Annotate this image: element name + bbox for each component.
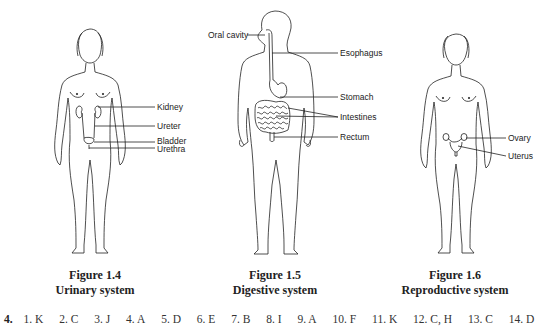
answer-item: 4. A (126, 313, 145, 325)
label-stomach: Stomach (340, 93, 374, 102)
caption-title: Urinary system (40, 283, 150, 298)
label-esophagus: Esophagus (340, 49, 383, 58)
caption-title: Reproductive system (380, 283, 530, 298)
answer-item: 12. C, H (413, 313, 452, 325)
answer-item: 14. D (509, 313, 535, 325)
caption-figure-1-4: Figure 1.4 Urinary system (40, 268, 150, 298)
answer-item: 7. B (231, 313, 250, 325)
figure-reproductive-system: Ovary Uterus Figure 1.6 Reproductive sys… (380, 0, 557, 300)
question-number: 4. (4, 313, 13, 325)
label-ureter: Ureter (157, 122, 181, 131)
answer-item: 8. I (266, 313, 281, 325)
label-ovary: Ovary (508, 134, 531, 143)
caption-figure-1-5: Figure 1.5 Digestive system (215, 268, 335, 298)
caption-figure-1-6: Figure 1.6 Reproductive system (380, 268, 530, 298)
label-intestines: Intestines (340, 113, 376, 122)
caption-number: Figure 1.5 (215, 268, 335, 283)
label-rectum: Rectum (340, 133, 369, 142)
caption-number: Figure 1.4 (40, 268, 150, 283)
figure-urinary-system: Kidney Ureter Bladder Urethra Figure 1.4… (0, 0, 200, 300)
answer-item: 11. K (372, 313, 397, 325)
answer-key: 4. 1. K 2. C 3. J 4. A 5. D 6. E 7. B 8.… (4, 313, 534, 325)
answer-item: 5. D (161, 313, 181, 325)
answer-item: 10. F (333, 313, 357, 325)
answer-item: 6. E (197, 313, 216, 325)
caption-number: Figure 1.6 (380, 268, 530, 283)
answer-item: 2. C (59, 313, 78, 325)
answer-item: 1. K (24, 313, 44, 325)
label-urethra: Urethra (157, 145, 185, 154)
label-oral-cavity: Oral cavity (208, 31, 248, 40)
female-body-outline-reproductive (380, 0, 557, 260)
answer-item: 3. J (94, 313, 110, 325)
answer-item: 9. A (298, 313, 317, 325)
answer-item: 13. C (468, 313, 493, 325)
caption-title: Digestive system (215, 283, 335, 298)
label-uterus: Uterus (508, 152, 533, 161)
figure-digestive-system: Oral cavity Esophagus Stomach Intestines… (200, 0, 380, 300)
label-kidney: Kidney (157, 103, 183, 112)
